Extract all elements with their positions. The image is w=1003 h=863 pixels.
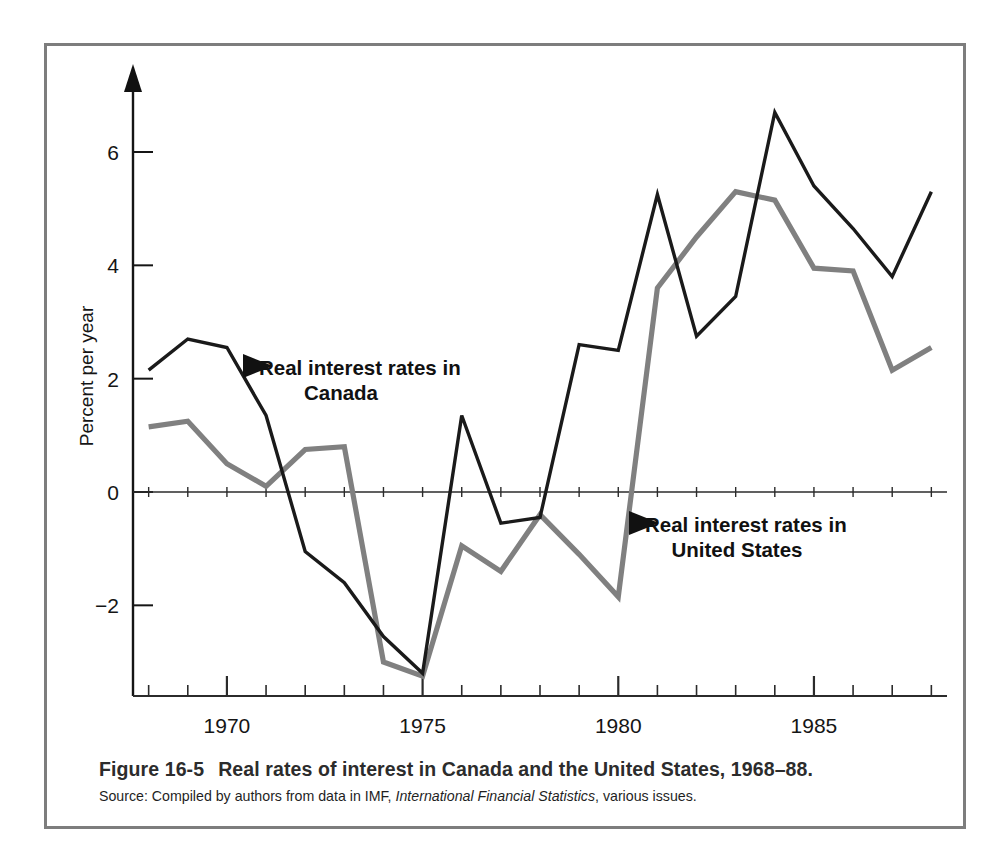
x-tick-group	[149, 676, 932, 696]
canada-annotation-line2: Canada	[304, 381, 379, 404]
canada-annotation-line1: Real interest rates in	[259, 356, 461, 379]
y-axis	[124, 64, 142, 696]
united-states-annotation: Real interest rates in United States	[629, 511, 847, 561]
series-line-canada	[149, 112, 932, 673]
figure-caption: Figure 16-5Real rates of interest in Can…	[99, 758, 929, 781]
figure-source: Source: Compiled by authors from data in…	[99, 788, 929, 804]
figure-source-suffix: , various issues.	[595, 788, 697, 804]
y-tick-label: 6	[107, 141, 119, 164]
figure-source-italic-title: International Financial Statistics	[396, 788, 596, 804]
x-tick-label: 1970	[204, 714, 251, 737]
x-tick-label: 1985	[791, 714, 838, 737]
y-tick-label: 0	[107, 481, 119, 504]
figure-root: −20246 1970197519801985 Percent per year	[0, 0, 1003, 863]
x-tick-label: 1980	[595, 714, 642, 737]
united-states-annotation-line2: United States	[672, 538, 803, 561]
x-tick-label: 1975	[399, 714, 446, 737]
y-axis-title: Percent per year	[76, 305, 97, 446]
data-series-group	[149, 112, 932, 676]
y-tick-label: 2	[107, 368, 119, 391]
figure-source-prefix: Source: Compiled by authors from data in…	[99, 788, 396, 804]
canada-annotation: Real interest rates in Canada	[243, 354, 461, 404]
caption-block: Figure 16-5Real rates of interest in Can…	[99, 758, 929, 804]
series-line-united-states	[149, 192, 932, 677]
figure-caption-text: Real rates of interest in Canada and the…	[218, 758, 813, 780]
y-tick-label: 4	[107, 254, 119, 277]
y-tick-group: −20246	[95, 141, 153, 617]
figure-frame: −20246 1970197519801985 Percent per year	[44, 43, 966, 829]
figure-caption-number: Figure 16-5	[99, 758, 204, 780]
united-states-annotation-line1: Real interest rates in	[645, 513, 847, 536]
x-tick-label-group: 1970197519801985	[204, 714, 838, 737]
y-axis-arrowhead	[124, 64, 142, 92]
line-chart: −20246 1970197519801985 Percent per year	[47, 46, 969, 832]
chart-plot-area: −20246 1970197519801985 Percent per year	[47, 46, 969, 832]
y-tick-label: −2	[95, 594, 119, 617]
